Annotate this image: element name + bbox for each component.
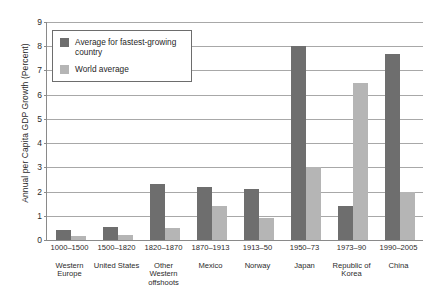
- x-axis-period: 1990–2005: [375, 244, 422, 253]
- y-tick-label: 9: [37, 18, 42, 27]
- x-axis-place: Republic of Korea: [328, 262, 375, 279]
- x-axis-period: 1000–1500: [46, 244, 93, 253]
- bar: [197, 187, 212, 240]
- bar: [165, 228, 180, 240]
- y-tick-mark: [44, 240, 47, 241]
- x-axis-label: 1950–73Japan: [281, 244, 328, 287]
- bar: [259, 218, 274, 240]
- x-axis-place: United States: [93, 262, 140, 271]
- chart-legend: Average for fastest-growing country Worl…: [52, 30, 192, 82]
- x-axis-place: Japan: [281, 262, 328, 271]
- bar-group: [282, 22, 329, 240]
- y-tick-label: 1: [37, 212, 42, 221]
- y-tick-label: 8: [37, 42, 42, 51]
- bar: [118, 235, 133, 240]
- x-axis-label: 1870–1913Mexico: [187, 244, 234, 287]
- y-tick-label: 7: [37, 66, 42, 75]
- x-axis-place: Norway: [234, 262, 281, 271]
- gdp-growth-bar-chart: Annual per Capita GDP Growth (Percent) 0…: [0, 0, 429, 304]
- x-axis-period: 1973–90: [328, 244, 375, 253]
- y-tick-label: 0: [37, 236, 42, 245]
- bar: [400, 192, 415, 240]
- bar: [338, 206, 353, 240]
- bar: [56, 230, 71, 240]
- bar: [306, 167, 321, 240]
- x-axis-place: China: [375, 262, 422, 271]
- bar-group: [376, 22, 423, 240]
- y-tick-label: 5: [37, 115, 42, 124]
- bar: [244, 189, 259, 240]
- y-axis-title: Annual per Capita GDP Growth (Percent): [20, 3, 30, 243]
- bar: [71, 236, 86, 240]
- legend-item-fastest-growing: Average for fastest-growing country: [60, 37, 184, 57]
- bar-group: [235, 22, 282, 240]
- x-axis-label: 1973–90Republic of Korea: [328, 244, 375, 287]
- x-axis-label: 1500–1820United States: [93, 244, 140, 287]
- x-axis-label: 1820–1870Other Western offshoots: [140, 244, 187, 287]
- x-axis-place: Mexico: [187, 262, 234, 271]
- legend-label-world-average: World average: [75, 64, 129, 74]
- x-axis-labels: 1000–1500Western Europe1500–1820United S…: [46, 244, 422, 287]
- legend-swatch-icon-dark: [60, 38, 69, 47]
- bar: [103, 227, 118, 240]
- y-tick-label: 6: [37, 90, 42, 99]
- bar: [291, 46, 306, 240]
- bar: [385, 54, 400, 241]
- bar-group: [329, 22, 376, 240]
- legend-item-world-average: World average: [60, 64, 184, 74]
- y-tick-label: 2: [37, 187, 42, 196]
- x-axis-period: 1500–1820: [93, 244, 140, 253]
- x-axis-period: 1870–1913: [187, 244, 234, 253]
- y-tick-label: 3: [37, 163, 42, 172]
- x-axis-period: 1950–73: [281, 244, 328, 253]
- x-axis-label: 1000–1500Western Europe: [46, 244, 93, 287]
- x-axis-period: 1913–50: [234, 244, 281, 253]
- x-axis-label: 1913–50Norway: [234, 244, 281, 287]
- bar: [150, 184, 165, 240]
- x-axis-label: 1990–2005China: [375, 244, 422, 287]
- x-axis-place: Western Europe: [46, 262, 93, 279]
- x-axis-place: Other Western offshoots: [140, 262, 187, 288]
- bar-group: [188, 22, 235, 240]
- bar: [353, 83, 368, 240]
- y-tick-label: 4: [37, 139, 42, 148]
- legend-label-fastest-growing: Average for fastest-growing country: [75, 37, 184, 57]
- x-axis-period: 1820–1870: [140, 244, 187, 253]
- bar: [212, 206, 227, 240]
- legend-swatch-icon-light: [60, 65, 69, 74]
